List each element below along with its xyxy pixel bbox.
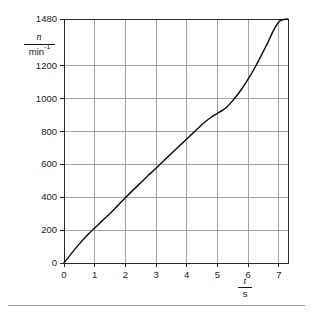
y-axis-label: n min-1 <box>24 31 55 57</box>
x-axis-label-numerator: t <box>244 275 247 286</box>
y-axis-label-numerator: n <box>37 31 42 42</box>
y-tick-label-0: 0 <box>52 257 57 268</box>
y-tick-label-1200: 1200 <box>36 60 57 71</box>
x-tick-label-5: 5 <box>215 269 220 280</box>
x-tick-label-1: 1 <box>92 269 97 280</box>
x-tick-label-0: 0 <box>61 269 66 280</box>
y-tick-label-200: 200 <box>41 224 57 235</box>
x-tick-label-3: 3 <box>153 269 158 280</box>
y-tick-label-400: 400 <box>41 191 57 202</box>
y-tick-label-600: 600 <box>41 158 57 169</box>
x-tick-label-7: 7 <box>276 269 281 280</box>
y-axis-label-denominator-base: min <box>29 46 44 57</box>
y-axis-label-denominator: min-1 <box>29 42 51 57</box>
plot-background <box>64 19 288 263</box>
y-tick-label-1000: 1000 <box>36 93 57 104</box>
y-tick-label-800: 800 <box>41 126 57 137</box>
x-axis-ticks: 01234567 <box>61 263 281 280</box>
figure-container: 0200400600800100012001480 01234567 n min… <box>0 0 313 321</box>
y-tick-label-1480: 1480 <box>36 13 57 24</box>
y-axis-label-denominator-exponent: -1 <box>44 42 50 49</box>
x-tick-label-2: 2 <box>123 269 128 280</box>
line-chart: 0200400600800100012001480 01234567 n min… <box>0 0 313 321</box>
x-axis-label-denominator: s <box>243 288 248 299</box>
x-tick-label-4: 4 <box>184 269 189 280</box>
